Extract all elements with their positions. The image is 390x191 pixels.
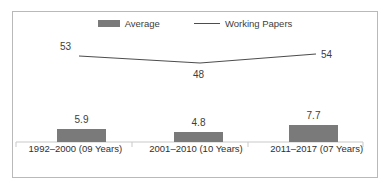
bar-data-label-2: 4.8	[174, 118, 223, 128]
category-label-3: 2011–2017 (07 Years)	[256, 144, 377, 154]
line-data-label-1: 53	[60, 42, 71, 52]
bar-series-average-1[interactable]	[57, 129, 106, 142]
category-label-1: 1992–2000 (09 Years)	[15, 144, 136, 154]
category-axis-labels: 1992–2000 (09 Years) 2001–2010 (10 Years…	[15, 144, 377, 154]
category-label-2: 2001–2010 (10 Years)	[136, 144, 257, 154]
bar-series-average-3[interactable]	[289, 125, 338, 142]
line-series-working-papers	[79, 54, 316, 63]
chart-container: Average Working Papers 53 48 54	[12, 11, 378, 178]
line-data-label-3: 54	[321, 50, 332, 60]
line-data-label-2: 48	[193, 70, 204, 80]
bar-data-label-3: 7.7	[289, 111, 338, 121]
bar-data-label-1: 5.9	[57, 115, 106, 125]
bar-series-average-2[interactable]	[174, 132, 223, 142]
